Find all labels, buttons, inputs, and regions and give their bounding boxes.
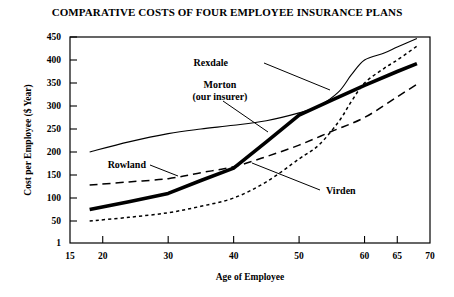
x-tick-label: 20 [98, 251, 108, 261]
series-line-rowland [90, 84, 417, 185]
y-tick-label: 250 [47, 124, 62, 134]
y-tick-label: 300 [47, 101, 62, 111]
x-tick-label: 70 [425, 251, 435, 261]
x-axis-title: Age of Employee [216, 272, 285, 282]
x-tick-label: 30 [163, 251, 173, 261]
leader-line-rowland [150, 165, 178, 176]
leader-line-virden [252, 163, 320, 190]
x-tick-label: 40 [229, 251, 239, 261]
y-tick-label: 100 [47, 193, 62, 203]
x-tick-label: 65 [393, 251, 403, 261]
x-axis-ticks [103, 236, 398, 243]
series-label-rowland: Rowland [108, 159, 147, 170]
series-label-virden: Virden [326, 185, 356, 196]
series-line-virden [90, 46, 417, 221]
y-axis-ticks [70, 37, 77, 243]
chart-figure: COMPARATIVE COSTS OF FOUR EMPLOYEE INSUR… [0, 0, 454, 297]
y-tick-label: 450 [47, 32, 62, 42]
x-tick-label: 60 [360, 251, 370, 261]
leader-line-rexdale [264, 63, 330, 90]
y-tick-label: 150 [47, 170, 62, 180]
y-tick-label: 350 [47, 78, 62, 88]
series-label-rexdale: Rexdale [194, 57, 229, 68]
y-tick-label: 50 [52, 216, 62, 226]
x-tick-label: 50 [294, 251, 304, 261]
series-line-morton [90, 64, 417, 210]
y-axis-title: Cost per Employee ($ Year) [23, 84, 34, 195]
annotation-leader-lines [150, 63, 330, 190]
chart-plot-area: 150100150200250300350400450 152030405060… [0, 0, 454, 297]
y-axis-tick-labels: 150100150200250300350400450 [47, 32, 62, 248]
y-tick-label: 1 [56, 238, 61, 248]
y-tick-label: 400 [47, 55, 62, 65]
series-label-morton-line1: Morton [204, 79, 237, 90]
series-label-morton-line2: (our insurer) [193, 91, 248, 103]
x-axis-tick-labels: 1520304050606570 [65, 251, 435, 261]
plot-frame [70, 37, 430, 243]
leader-line-morton [223, 101, 268, 132]
x-tick-label: 15 [65, 251, 75, 261]
y-tick-label: 200 [47, 147, 62, 157]
data-series-group [90, 38, 417, 221]
series-line-rexdale [90, 38, 417, 152]
